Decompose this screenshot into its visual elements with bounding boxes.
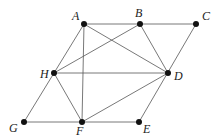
point-label-H: H	[39, 67, 50, 81]
point-label-A: A	[71, 9, 80, 23]
point-C	[193, 21, 199, 27]
point-A	[81, 21, 87, 27]
geometry-diagram: ABCHDGFE	[0, 0, 219, 140]
point-label-D: D	[173, 69, 183, 83]
point-label-F: F	[75, 124, 84, 138]
segment-HF	[54, 73, 82, 122]
point-B	[137, 21, 143, 27]
segment-BD	[140, 24, 168, 73]
point-label-B: B	[135, 6, 143, 20]
point-label-C: C	[202, 9, 211, 23]
point-H	[51, 70, 57, 76]
point-G	[21, 119, 27, 125]
segment-FD	[82, 73, 168, 122]
labels: ABCHDGFE	[9, 6, 211, 138]
point-D	[165, 70, 171, 76]
point-label-E: E	[142, 122, 151, 136]
point-E	[136, 119, 142, 125]
point-label-G: G	[9, 121, 18, 135]
